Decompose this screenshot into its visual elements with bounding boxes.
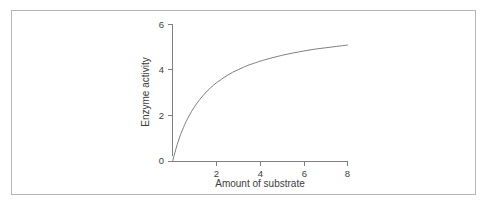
figure-root: 0 2 4 6 2 4 6 8 Amount of substrate Enzy… [0, 0, 487, 210]
y-tick-label-4: 4 [150, 65, 164, 75]
y-axis-ticks [168, 25, 173, 162]
x-tick-label-8: 8 [345, 169, 350, 179]
y-tick-label-6: 6 [150, 20, 164, 30]
x-axis-ticks [217, 162, 348, 167]
enzyme-activity-chart: 0 2 4 6 2 4 6 8 Amount of substrate Enzy… [0, 0, 487, 210]
y-tick-label-0: 0 [150, 156, 164, 166]
x-axis-title: Amount of substrate [215, 179, 305, 189]
y-tick-label-2: 2 [150, 111, 164, 121]
enzyme-activity-curve [173, 45, 348, 161]
y-axis-title: Enzyme activity [141, 57, 151, 126]
